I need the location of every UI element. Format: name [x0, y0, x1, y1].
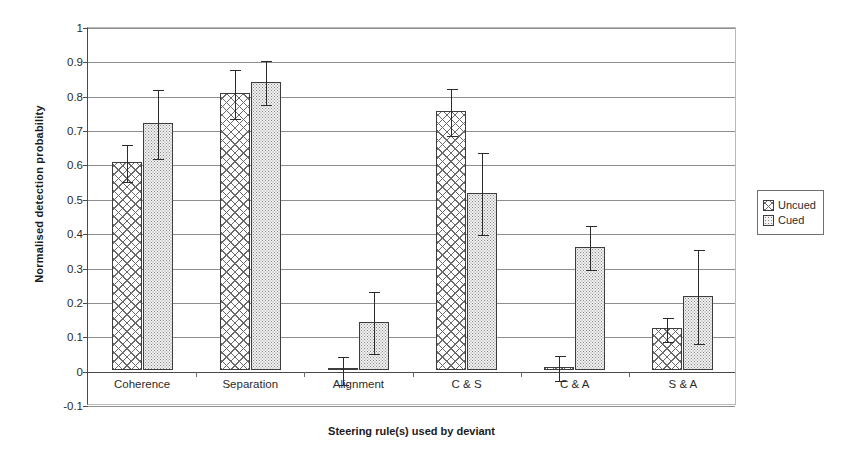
x-axis-tick-label: C & S [452, 378, 482, 390]
bar-group [652, 28, 713, 404]
error-bar-cap [694, 344, 705, 345]
error-bar-cap [122, 182, 133, 183]
legend-swatch-cued-icon [763, 215, 774, 226]
gridline [88, 28, 735, 29]
y-axis-tick-mark [83, 406, 88, 407]
bar-uncued[interactable] [112, 162, 142, 370]
bar-group [436, 28, 497, 404]
gridline [88, 269, 735, 270]
gridline [88, 62, 735, 63]
y-axis-tick-label: 0.6 [67, 159, 83, 171]
x-axis-tick-mark [629, 372, 630, 377]
error-bar-cued [158, 90, 159, 161]
y-axis-label: Normalised detection probability [33, 69, 45, 319]
bar-group [112, 28, 173, 404]
error-bar-uncued [451, 89, 452, 137]
plot-area: 10.90.80.70.60.50.40.30.20.10-0.1Coheren… [87, 27, 736, 405]
error-bar-cap [447, 89, 458, 90]
error-bar-cap [369, 354, 380, 355]
error-bar-cap [122, 145, 133, 146]
error-bar-cap [153, 90, 164, 91]
x-axis-label: Steering rule(s) used by deviant [87, 425, 736, 437]
error-bar-uncued [127, 145, 128, 183]
legend-swatch-uncued-icon [763, 200, 774, 211]
error-bar-uncued [667, 318, 668, 343]
x-axis-tick-label: S & A [669, 378, 698, 390]
y-axis-tick-label: 0.5 [67, 194, 83, 206]
error-bar-cap [694, 250, 705, 251]
gridline [88, 97, 735, 98]
bar-cued[interactable] [251, 82, 281, 370]
chart-legend: Uncued Cued [757, 190, 824, 235]
error-bar-cap [586, 270, 597, 271]
y-axis-tick-label: 0 [77, 366, 83, 378]
x-axis-tick-label: Coherence [114, 378, 170, 390]
y-axis-tick-mark [83, 200, 88, 201]
x-axis-tick-label: C & A [560, 378, 589, 390]
x-axis-tick-mark [304, 372, 305, 377]
error-bar-cap [663, 318, 674, 319]
gridline [88, 337, 735, 338]
error-bar-cap [478, 235, 489, 236]
legend-label-uncued: Uncued [778, 199, 816, 211]
error-bar-cued [698, 250, 699, 345]
gridline [88, 165, 735, 166]
bar-group [544, 28, 605, 404]
y-axis-tick-label: 0.3 [67, 263, 83, 275]
error-bar-cued [482, 153, 483, 235]
y-axis-tick-mark [83, 372, 88, 373]
gridline [88, 200, 735, 201]
y-axis-tick-label: 0.9 [67, 56, 83, 68]
error-bar-cued [590, 226, 591, 271]
x-axis-tick-label: Separation [222, 378, 278, 390]
y-axis-tick-mark [83, 337, 88, 338]
y-axis-tick-mark [83, 97, 88, 98]
y-axis-tick-label: 0.2 [67, 297, 83, 309]
bar-uncued[interactable] [436, 111, 466, 369]
y-axis-tick-mark [83, 234, 88, 235]
gridline [88, 234, 735, 235]
error-bar-cued [374, 292, 375, 355]
x-axis-tick-mark [521, 372, 522, 377]
error-bar-cap [230, 119, 241, 120]
error-bar-cap [153, 159, 164, 160]
error-bar-cued [266, 61, 267, 106]
chart-figure: Normalised detection probability 10.90.8… [0, 0, 847, 456]
error-bar-uncued [235, 70, 236, 119]
legend-item-cued: Cued [763, 214, 816, 226]
gridline [88, 303, 735, 304]
gridline [88, 372, 735, 373]
error-bar-cap [261, 61, 272, 62]
error-bar-cap [338, 357, 349, 358]
y-axis-tick-mark [83, 269, 88, 270]
bar-group [328, 28, 389, 404]
y-axis-tick-mark [83, 165, 88, 166]
y-axis-tick-label: 1 [77, 22, 83, 34]
bar-uncued[interactable] [220, 93, 250, 370]
y-axis-tick-label: 0.1 [67, 331, 83, 343]
y-axis-tick-mark [83, 131, 88, 132]
error-bar-cap [447, 136, 458, 137]
bar-group [220, 28, 281, 404]
gridline [88, 131, 735, 132]
x-axis-tick-mark [413, 372, 414, 377]
x-axis-tick-label: Alignment [333, 378, 384, 390]
y-axis-tick-label: 0.4 [67, 228, 83, 240]
y-axis-tick-label: 0.7 [67, 125, 83, 137]
gridline [88, 406, 735, 407]
y-axis-tick-mark [83, 303, 88, 304]
error-bar-cap [261, 105, 272, 106]
y-axis-tick-label: 0.8 [67, 91, 83, 103]
y-axis-tick-label: -0.1 [63, 400, 83, 412]
error-bar-cap [230, 70, 241, 71]
error-bar-cap [663, 342, 674, 343]
legend-label-cued: Cued [778, 214, 804, 226]
error-bar-cap [555, 356, 566, 357]
error-bar-cap [369, 292, 380, 293]
error-bar-cap [478, 153, 489, 154]
y-axis-tick-mark [83, 28, 88, 29]
x-axis-tick-mark [196, 372, 197, 377]
legend-item-uncued: Uncued [763, 199, 816, 211]
y-axis-tick-mark [83, 62, 88, 63]
error-bar-cap [586, 226, 597, 227]
